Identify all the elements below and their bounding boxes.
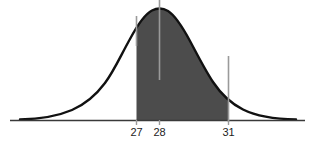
shaded-area-region [20,9,296,122]
tick-label-28: 28 [151,127,168,138]
tick-label-31: 31 [220,127,237,138]
tick-label-27: 27 [128,127,145,138]
normal-distribution-chart: 27 28 31 [0,0,315,150]
